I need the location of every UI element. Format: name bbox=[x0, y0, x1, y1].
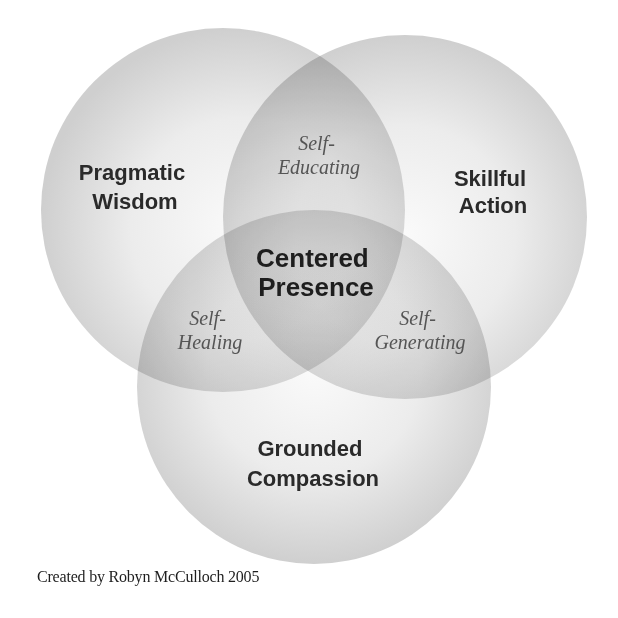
label-line: Generating bbox=[374, 331, 465, 354]
label-line: Skillful bbox=[454, 166, 526, 191]
label-line: Self- bbox=[298, 132, 335, 155]
label-line: Compassion bbox=[247, 466, 379, 491]
venn-diagram: Pragmatic Wisdom Skillful Action Grounde… bbox=[0, 0, 618, 618]
label-centered-presence: Centered Presence bbox=[256, 243, 376, 302]
label-line: Pragmatic bbox=[79, 160, 185, 185]
label-line: Action bbox=[459, 193, 527, 218]
credit-caption: Created by Robyn McCulloch 2005 bbox=[37, 568, 259, 586]
label-line: Educating bbox=[277, 156, 360, 179]
label-line: Self- bbox=[399, 307, 436, 330]
label-line: Self- bbox=[189, 307, 226, 330]
label-line: Grounded bbox=[257, 436, 362, 461]
label-line: Healing bbox=[177, 331, 242, 354]
label-line: Centered bbox=[256, 243, 369, 273]
label-line: Presence bbox=[258, 272, 374, 302]
label-line: Wisdom bbox=[92, 189, 177, 214]
